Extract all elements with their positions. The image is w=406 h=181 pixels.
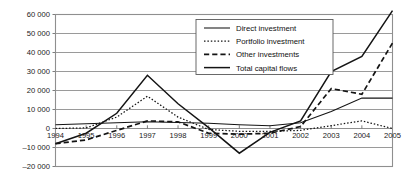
x-axis-tick-label: 1997 xyxy=(139,131,156,140)
legend-label-portfolio-investment: Portfolio investment xyxy=(236,37,305,46)
y-axis-labels: 60 00050 00040 00030 00020 00010 0000–10… xyxy=(23,10,50,171)
y-axis-tick-label: –10 000 xyxy=(23,143,50,152)
x-axis-tick-label: 2001 xyxy=(262,131,279,140)
y-axis-tick-label: 30 000 xyxy=(27,67,50,76)
x-axis-tick-label: 1996 xyxy=(108,131,125,140)
chart-legend: Direct investmentPortfolio investmentOth… xyxy=(196,20,333,75)
y-axis-tick-label: 10 000 xyxy=(27,105,50,114)
x-axis-tick-label: 2004 xyxy=(353,131,370,140)
x-axis-tick-label: 2000 xyxy=(231,131,248,140)
x-axis-tick-label: 1999 xyxy=(200,131,217,140)
legend-label-total-capital-flows: Total capital flows xyxy=(236,64,297,73)
x-axis-tick-label: 1994 xyxy=(47,131,64,140)
y-axis-tick-label: –20 000 xyxy=(23,162,50,171)
capital-flows-line-chart: 60 00050 00040 00030 00020 00010 0000–10… xyxy=(0,0,406,181)
x-axis-tick-label: 2003 xyxy=(323,131,340,140)
x-axis-tick-label: 1998 xyxy=(170,131,187,140)
chart-container: 60 00050 00040 00030 00020 00010 0000–10… xyxy=(0,0,406,181)
y-axis-tick-label: 60 000 xyxy=(27,10,50,19)
legend-label-other-investments: Other investments xyxy=(236,50,299,59)
y-axis-tick-label: 50 000 xyxy=(27,29,50,38)
y-axis-tick-label: 20 000 xyxy=(27,86,50,95)
x-axis-tick-label: 1995 xyxy=(78,131,95,140)
y-axis-tick-label: 40 000 xyxy=(27,48,50,57)
x-axis-tick-label: 2002 xyxy=(292,131,309,140)
x-axis-tick-label: 2005 xyxy=(384,131,401,140)
legend-label-direct-investment: Direct investment xyxy=(236,24,297,33)
